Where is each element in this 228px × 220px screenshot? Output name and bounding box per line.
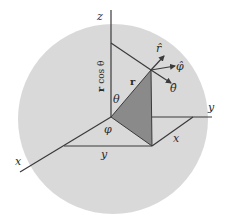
r-cos-theta-rest: cos θ [96,61,106,87]
r-cos-theta-label: r cos θ [95,61,106,93]
theta-hat-label: θ̂ [170,82,177,95]
projection-y-label: y [100,148,108,161]
svg-text:r cos θ: r cos θ [95,61,106,93]
theta-angle-label: θ [113,93,120,106]
diagram-canvas: z y x r r̂ φ̂ θ̂ θ φ y x r cos θ [0,0,228,220]
z-axis-label: z [96,10,103,23]
x-axis-label: x [15,155,22,168]
r-vector-label: r [130,76,136,87]
spherical-coordinates-diagram: z y x r r̂ φ̂ θ̂ θ φ y x r cos θ [0,0,228,220]
y-axis-label: y [207,101,215,114]
phi-angle-label: φ [104,123,112,136]
phi-hat-label: φ̂ [176,60,184,73]
projection-x-label: x [173,132,180,145]
